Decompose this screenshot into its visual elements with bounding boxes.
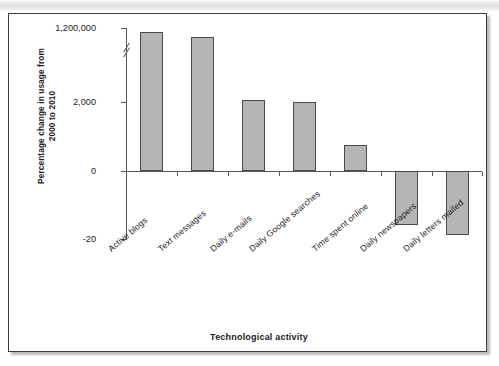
figure-scan: Percentage change in usage from 2000 to … [0, 0, 499, 366]
bar-text-messages [191, 37, 214, 171]
bar-chart-plot: Percentage change in usage from 2000 to … [9, 14, 488, 353]
bar-daily-google-searches [293, 102, 316, 171]
x-axis-title: Technological activity [129, 332, 389, 342]
x-tick-mark [381, 172, 382, 176]
x-tick-mark [228, 172, 229, 176]
scan-header-band [0, 0, 499, 11]
x-tick-mark [330, 172, 331, 176]
x-tick-mark [279, 172, 280, 176]
x-category-label: Active blogs [106, 215, 149, 254]
x-tick-mark [126, 172, 127, 176]
bar-time-spent-online [344, 145, 367, 171]
bar-active-blogs [140, 32, 163, 171]
y-axis-title-line1: Percentage change in usage from [36, 48, 46, 184]
figure-frame: Percentage change in usage from 2000 to … [8, 13, 487, 352]
scan-header-ghost-text [105, 0, 405, 8]
x-axis-zero-line [126, 171, 482, 172]
y-tick-mark [121, 102, 126, 103]
axis-break-icon [119, 41, 135, 59]
y-tick-mark [121, 28, 126, 29]
x-tick-mark [432, 172, 433, 176]
x-category-label: Text messages [156, 208, 208, 254]
x-tick-mark [482, 172, 483, 176]
x-tick-mark [177, 172, 178, 176]
y-tick-label: 1,200,000 [12, 23, 96, 33]
y-tick-label: 0 [12, 166, 96, 176]
y-tick-label: 2,000 [12, 97, 96, 107]
bar-daily-emails [242, 100, 265, 171]
y-axis-line [126, 28, 127, 240]
x-category-label: Daily e-mails [208, 213, 254, 254]
y-tick-label: -20 [12, 234, 96, 244]
